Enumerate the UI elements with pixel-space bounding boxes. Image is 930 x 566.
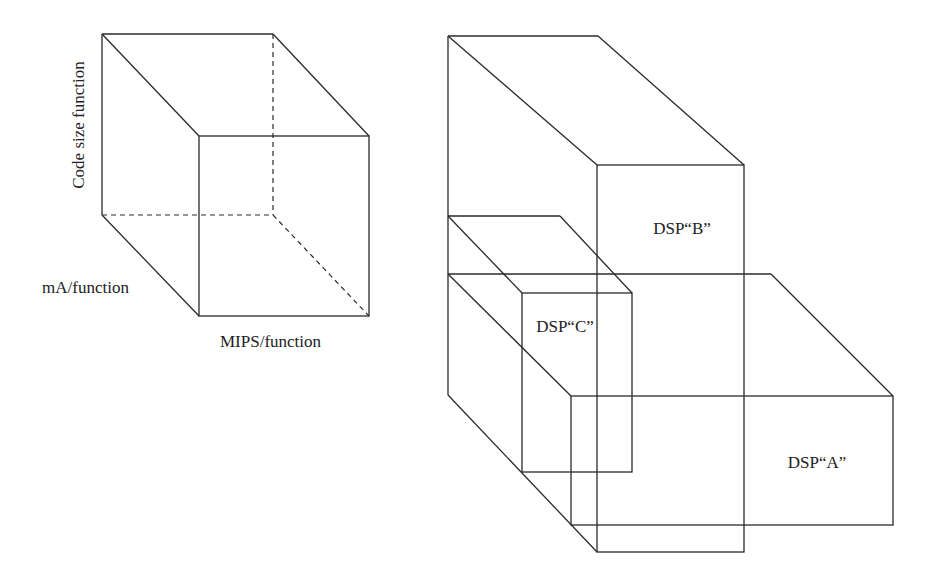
box-a-top-right-depth-edge (771, 274, 893, 396)
box-a-label: DSP“A” (788, 453, 847, 472)
axis-label-mips: MIPS/function (220, 332, 322, 351)
cube-top-left-depth-edge (102, 34, 199, 136)
box-c-top-left-depth-edge (448, 216, 522, 293)
cube-hidden-depth-edge (273, 215, 369, 316)
box-c-top-right-depth-edge (560, 216, 632, 293)
axis-label-code-size: Code size function (69, 61, 88, 189)
box-b-top-left-depth-edge (448, 36, 597, 165)
box-c-label: DSP“C” (536, 317, 594, 336)
box-dsp-c: DSP“C” (448, 216, 632, 472)
box-dsp-b: DSP“B” (448, 36, 744, 552)
diagram-canvas: Code size function mA/function MIPS/func… (0, 0, 930, 566)
cube-bottom-left-depth-edge (102, 215, 199, 316)
box-dsp-a: DSP“A” (448, 274, 893, 525)
cube-top-right-depth-edge (273, 34, 369, 136)
box-b-label: DSP“B” (653, 219, 711, 238)
box-b-top-right-depth-edge (598, 36, 744, 165)
axis-label-ma: mA/function (42, 278, 129, 297)
reference-cube: Code size function mA/function MIPS/func… (42, 34, 369, 351)
